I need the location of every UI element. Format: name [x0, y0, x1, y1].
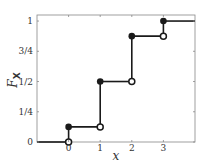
y-axis-label-sub: X	[12, 72, 22, 79]
closed-point-marker	[97, 78, 104, 85]
open-point-marker	[129, 79, 135, 85]
cdf-step-chart: 0123 01/41/23/41 x FX	[0, 0, 207, 168]
x-tick-label: 0	[66, 143, 72, 153]
open-point-marker	[160, 33, 166, 39]
x-tick-label: 2	[129, 143, 135, 153]
y-tick-label: 3/4	[19, 46, 34, 56]
closed-point-marker	[65, 124, 72, 131]
x-tick-label: 1	[97, 143, 103, 153]
closed-point-marker	[160, 18, 167, 25]
axes-frame	[37, 15, 195, 142]
plot-area	[37, 15, 195, 145]
closed-point-marker	[129, 33, 136, 40]
y-tick-label: 0	[27, 137, 33, 147]
y-axis-label: FX	[6, 72, 22, 88]
x-tick-label: 3	[161, 143, 167, 153]
open-point-marker	[97, 124, 103, 130]
y-tick-label: 1/4	[19, 107, 34, 117]
x-axis-label: x	[113, 149, 120, 163]
y-tick-label: 1	[27, 16, 33, 26]
